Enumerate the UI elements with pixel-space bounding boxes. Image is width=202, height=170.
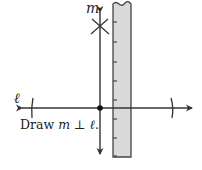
caption-prefix: Draw: [20, 117, 58, 132]
perpendicular-construction-diagram: m ℓ: [0, 0, 202, 170]
instruction-caption: Draw m ⊥ ℓ.: [20, 117, 99, 133]
caption-perp-symbol: ⊥: [70, 117, 90, 132]
caption-var-m: m: [58, 117, 70, 132]
ruler[interactable]: [113, 2, 131, 157]
label-m: m: [86, 0, 99, 16]
intersection-point: [97, 105, 103, 111]
ruler-body: [113, 2, 131, 157]
label-l: ℓ: [14, 90, 20, 106]
caption-suffix: .: [95, 117, 99, 132]
